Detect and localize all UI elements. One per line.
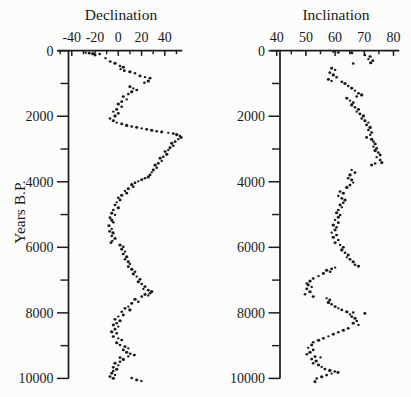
- svg-text:0: 0: [258, 44, 265, 59]
- svg-text:20: 20: [135, 30, 149, 45]
- svg-text:40: 40: [270, 30, 284, 45]
- svg-text:0: 0: [47, 44, 54, 59]
- axes: [58, 50, 182, 379]
- svg-text:8000: 8000: [26, 306, 54, 321]
- svg-text:6000: 6000: [237, 240, 265, 255]
- svg-text:10000: 10000: [230, 371, 265, 386]
- svg-text:2000: 2000: [26, 109, 54, 124]
- axes: [271, 50, 399, 379]
- x-axis-ticks: -40-2002040: [60, 30, 176, 56]
- x-axis-ticks: 4050607080: [270, 30, 401, 56]
- declination-plot-title: Declination: [85, 6, 157, 24]
- scatter-plots-canvas: -40-200204002000400060008000100004050607…: [0, 0, 411, 397]
- svg-text:80: 80: [387, 30, 401, 45]
- svg-text:6000: 6000: [26, 240, 54, 255]
- svg-text:2000: 2000: [237, 109, 265, 124]
- svg-text:40: 40: [158, 30, 172, 45]
- svg-text:50: 50: [299, 30, 313, 45]
- inclination-plot-title: Inclination: [302, 6, 369, 24]
- inclination-data-points: [304, 51, 384, 384]
- svg-text:-40: -40: [62, 30, 81, 45]
- inclination-plot: 40506070800200040006000800010000: [230, 30, 401, 387]
- svg-text:4000: 4000: [26, 175, 54, 190]
- declination-plot: -40-20020400200040006000800010000: [19, 30, 183, 387]
- svg-text:-20: -20: [86, 30, 105, 45]
- secular-variation-figure: -40-200204002000400060008000100004050607…: [0, 0, 411, 397]
- svg-text:0: 0: [115, 30, 122, 45]
- years-bp-axis-label: Years B.P.: [11, 180, 29, 243]
- svg-text:8000: 8000: [237, 306, 265, 321]
- y-axis-ticks: 0200040006000800010000: [230, 44, 280, 387]
- svg-text:4000: 4000: [237, 175, 265, 190]
- svg-text:10000: 10000: [19, 371, 54, 386]
- declination-data-points: [84, 52, 182, 383]
- svg-text:60: 60: [328, 30, 342, 45]
- svg-text:70: 70: [357, 30, 371, 45]
